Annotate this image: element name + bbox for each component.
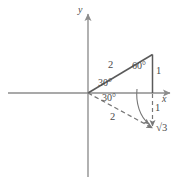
lower-hypotenuse-length-label: 2 [110, 112, 115, 123]
rotation-arc-arrow [137, 89, 149, 124]
figure-svg [0, 0, 182, 187]
base-length-sqrt3-label: √3 [156, 122, 167, 134]
upper-vertical-length-label: 1 [156, 66, 161, 77]
lower-origin-angle-label: 30° [102, 93, 116, 103]
trigonometry-figure: y x 2 30° 60° 1 30° 2 1 √3 [0, 0, 182, 187]
upper-hypotenuse-length-label: 2 [108, 60, 113, 71]
x-axis-label: x [162, 94, 166, 104]
apex-angle-label: 60° [132, 61, 146, 71]
upper-origin-angle-label: 30° [98, 78, 112, 88]
lower-vertical-length-label: 1 [155, 103, 160, 114]
y-axis-label: y [78, 5, 82, 15]
radicand: 3 [162, 122, 167, 133]
lower-hypotenuse-dashed [88, 93, 153, 128]
